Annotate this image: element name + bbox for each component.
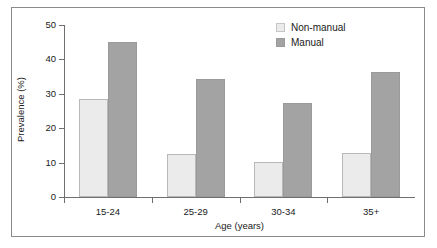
bar-manual-25-29 bbox=[196, 79, 225, 197]
bar-non-manual-30-34 bbox=[254, 162, 283, 197]
bar-manual-35+ bbox=[371, 72, 400, 197]
chart-legend: Non-manualManual bbox=[276, 21, 406, 51]
bar-manual-30-34 bbox=[283, 103, 312, 197]
y-axis-tick bbox=[59, 128, 64, 129]
x-axis-tick-label: 30-34 bbox=[243, 206, 323, 217]
x-axis-tick bbox=[152, 198, 153, 203]
legend-item-manual: Manual bbox=[276, 36, 406, 49]
x-axis-tick bbox=[327, 198, 328, 203]
y-axis-tick bbox=[59, 25, 64, 26]
x-axis-tick bbox=[64, 198, 65, 203]
x-axis-tick bbox=[240, 198, 241, 203]
legend-swatch-icon bbox=[276, 38, 285, 47]
bar-non-manual-35+ bbox=[342, 153, 371, 197]
y-axis-tick bbox=[59, 59, 64, 60]
legend-label: Manual bbox=[291, 37, 324, 48]
x-axis-tick-label: 15-24 bbox=[68, 206, 148, 217]
y-axis-tick-label: 0 bbox=[16, 192, 56, 202]
y-axis-tick-label-text: 50 bbox=[18, 20, 56, 30]
legend-swatch-icon bbox=[276, 23, 285, 32]
bar-non-manual-25-29 bbox=[167, 154, 196, 197]
bar-non-manual-15-24 bbox=[79, 99, 108, 197]
y-axis-tick bbox=[59, 163, 64, 164]
legend-label: Non-manual bbox=[291, 22, 345, 33]
legend-item-non-manual: Non-manual bbox=[276, 21, 406, 34]
y-axis-tick-label: 50 bbox=[16, 20, 56, 30]
x-axis-tick-label: 25-29 bbox=[156, 206, 236, 217]
bar-manual-15-24 bbox=[108, 42, 137, 197]
y-axis-title: Prevalence (%) bbox=[15, 45, 26, 175]
y-axis-tick bbox=[59, 94, 64, 95]
bar-chart: 01020304050 Prevalence (%) 15-2425-2930-… bbox=[0, 0, 437, 248]
y-axis-line bbox=[64, 25, 65, 198]
x-axis-tick-label: 35+ bbox=[331, 206, 411, 217]
x-axis-title: Age (years) bbox=[64, 220, 415, 231]
y-axis-tick-label-text: 0 bbox=[18, 192, 56, 202]
